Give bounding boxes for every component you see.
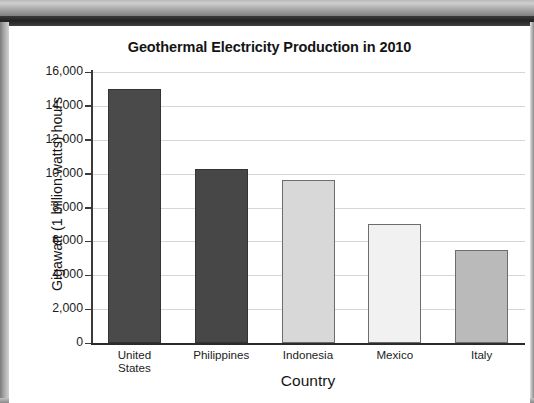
x-axis-tick-label-line: Indonesia [265,348,352,361]
y-axis-tick-label: 0 [21,335,83,349]
bar [195,169,248,343]
x-axis-tick-label: Mexico [351,348,438,361]
x-axis-tick-label-line: Italy [438,348,525,361]
x-axis-title: Country [91,372,525,390]
plot-area [91,72,525,343]
x-axis-tick-label-line: United [91,348,178,361]
bar [282,180,335,343]
page-surface: Geothermal Electricity Production in 201… [9,26,530,403]
scan-left-edge [0,22,9,403]
bar-chart-figure: Geothermal Electricity Production in 201… [9,26,530,403]
scan-right-edge [530,22,534,403]
x-axis-line [91,343,525,345]
scanned-page: Geothermal Electricity Production in 201… [0,0,534,403]
chart-title: Geothermal Electricity Production in 201… [9,39,530,55]
x-axis-tick-label: Italy [438,348,525,361]
bar [368,224,421,343]
x-axis-tick-label: Indonesia [265,348,352,361]
x-axis-tick-label: Philippines [178,348,265,361]
x-axis-tick-label-line: Mexico [351,348,438,361]
bar [108,89,161,343]
y-axis-line [91,70,93,345]
x-axis-tick-label-line: Philippines [178,348,265,361]
x-axis-tick-label: UnitedStates [91,348,178,375]
bar-series [91,72,525,343]
bar [455,250,508,343]
y-axis-title: Gigawatt (1 billion watts) hours [49,54,65,334]
